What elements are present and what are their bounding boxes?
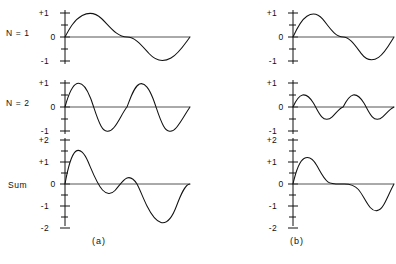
svg-b-n1: +1 0 -1 (198, 4, 396, 70)
plot-a-sum: Sum +2 +1 0 -1 -2 (0, 136, 198, 232)
ticklabel-zero: 0 (50, 102, 55, 112)
ticklabel-plus1: +1 (267, 78, 278, 88)
ticklabel-plus2: +2 (267, 135, 278, 145)
plot-a-n1: N = 1 +1 0 -1 (0, 4, 198, 70)
figure-canvas: N = 1 +1 0 -1 (0, 0, 396, 264)
panel-a: N = 1 +1 0 -1 (0, 0, 198, 264)
plot-b-n1: +1 0 -1 (198, 4, 396, 70)
ticklabel-minus1: -1 (269, 201, 278, 211)
ticklabel-plus2: +2 (39, 135, 50, 145)
svg-a-n1: +1 0 -1 (0, 4, 198, 70)
panel-b: +1 0 -1 +1 0 -1 (198, 0, 396, 264)
svg-b-n2: +1 0 -1 (198, 76, 396, 138)
curve-a-sum (65, 150, 190, 222)
svg-a-sum: +2 +1 0 -1 -2 (0, 136, 198, 232)
ticklabel-plus1: +1 (267, 157, 278, 167)
ticklabel-plus1: +1 (267, 8, 278, 18)
ticklabel-zero: 0 (50, 32, 55, 42)
ticklabel-plus1: +1 (39, 78, 50, 88)
ticklabel-minus1: -1 (41, 201, 50, 211)
plot-a-n2: N = 2 +1 0 -1 (0, 76, 198, 138)
svg-b-sum: +2 +1 0 -1 -2 (198, 136, 396, 232)
ticklabel-minus2: -2 (269, 223, 278, 233)
panel-caption-a: (a) (0, 236, 198, 246)
ticklabel-zero: 0 (278, 102, 283, 112)
plot-b-sum: +2 +1 0 -1 -2 (198, 136, 396, 232)
ticklabel-plus1: +1 (39, 8, 50, 18)
svg-a-n2: +1 0 -1 (0, 76, 198, 138)
ticklabel-zero: 0 (278, 179, 283, 189)
ticklabel-minus1: -1 (269, 56, 278, 66)
ticklabel-minus1: -1 (41, 56, 50, 66)
ticklabel-minus2: -2 (41, 223, 50, 233)
plot-b-n2: +1 0 -1 (198, 76, 396, 138)
ticklabel-zero: 0 (50, 179, 55, 189)
ticklabel-zero: 0 (278, 32, 283, 42)
panel-caption-b: (b) (198, 236, 396, 246)
ticklabel-plus1: +1 (39, 157, 50, 167)
